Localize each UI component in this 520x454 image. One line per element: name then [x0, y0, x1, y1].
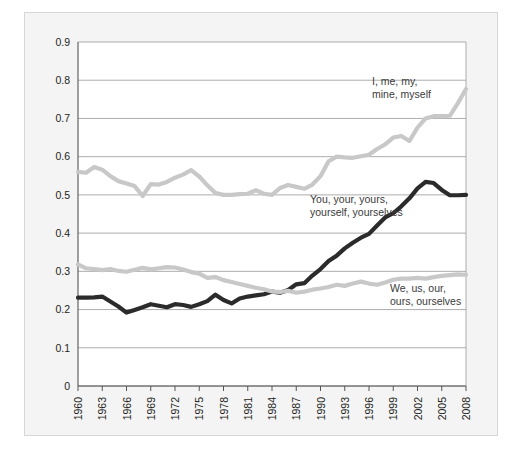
x-axis-tick-label: 2008 [460, 397, 472, 421]
x-axis-tick-label: 2002 [412, 397, 424, 421]
chart-plot-wrapper: 00.10.20.30.40.50.60.70.80.9 19601963196… [0, 0, 520, 454]
x-axis-tick-label: 1987 [290, 397, 302, 421]
x-axis-tick-label: 1960 [72, 397, 84, 421]
x-axis-tick-label: 1969 [145, 397, 157, 421]
y-axis-tick-label: 0 [64, 380, 70, 392]
y-axis-tick-label: 0.5 [55, 189, 70, 201]
y-axis-tick-label: 0.6 [55, 150, 70, 162]
x-axis-tick-label: 1999 [387, 397, 399, 421]
x-axis-tick-label: 1972 [169, 397, 181, 421]
y-axis-tick-label: 0.4 [55, 227, 70, 239]
series-annotation-label: You, your, yours, [310, 193, 388, 205]
y-axis-tick-label: 0.9 [55, 36, 70, 48]
y-axis-tick-labels: 00.10.20.30.40.50.60.70.80.9 [55, 36, 70, 392]
x-axis-tick-label: 1984 [266, 397, 278, 421]
x-axis-ticks: 1960196319661969197219751978198119841987… [72, 386, 472, 420]
y-axis-tick-label: 0.2 [55, 303, 70, 315]
figure-container: 00.10.20.30.40.50.60.70.80.9 19601963196… [0, 0, 520, 454]
x-axis-tick-label: 1966 [121, 397, 133, 421]
x-axis-tick-label: 1978 [218, 397, 230, 421]
series-annotation-label: yourself, yourselves [310, 206, 403, 218]
x-axis-tick-label: 1975 [193, 397, 205, 421]
series-annotation-label: We, us, our, [390, 282, 446, 294]
y-axis-tick-label: 0.8 [55, 74, 70, 86]
x-axis-tick-label: 1993 [339, 397, 351, 421]
y-axis-tick-label: 0.7 [55, 112, 70, 124]
line-chart: 00.10.20.30.40.50.60.70.80.9 19601963196… [0, 0, 520, 454]
x-axis-tick-label: 1981 [242, 397, 254, 421]
x-axis-tick-label: 2005 [436, 397, 448, 421]
y-axis-tick-label: 0.3 [55, 265, 70, 277]
x-axis-tick-label: 1990 [315, 397, 327, 421]
x-axis-tick-label: 1996 [363, 397, 375, 421]
series-annotation-label: I, me, my, [372, 75, 417, 87]
x-axis-tick-label: 1963 [96, 397, 108, 421]
series-annotation-label: ours, ourselves [390, 295, 461, 307]
y-axis-tick-label: 0.1 [55, 342, 70, 354]
series-annotation-label: mine, myself [372, 88, 431, 100]
